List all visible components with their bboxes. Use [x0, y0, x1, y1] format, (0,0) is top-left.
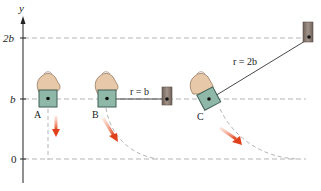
case-b	[95, 72, 172, 159]
velocity-arrow-a	[52, 116, 60, 137]
case-label-a: A	[34, 110, 41, 120]
rope-label-b: r = b	[130, 87, 149, 97]
axis-label-y: y	[19, 3, 24, 14]
peg-c	[303, 22, 313, 42]
rope-label-c: r = 2b	[233, 57, 257, 67]
peg-b	[162, 87, 172, 105]
rope-c	[210, 38, 310, 99]
arc-path-c	[220, 109, 298, 159]
velocity-arrow-c	[220, 128, 242, 145]
case-label-b: B	[92, 110, 99, 120]
case-label-c: C	[197, 112, 204, 122]
velocity-arrow-b	[103, 118, 118, 142]
tick-label-0: 0	[11, 154, 17, 165]
diagram-canvas	[0, 0, 321, 191]
tick-label-2b: 2b	[3, 33, 14, 44]
case-c	[190, 22, 313, 159]
tick-label-b: b	[10, 94, 16, 105]
